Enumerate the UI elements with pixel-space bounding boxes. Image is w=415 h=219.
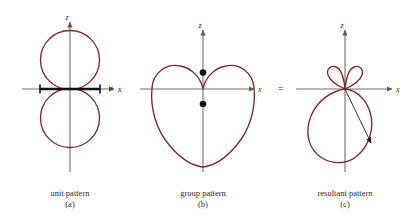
panel-c-caption-text: resultant pattern (318, 188, 373, 198)
panel-c-main-lobe (308, 89, 372, 163)
panel-a-caption-sub: (a) (20, 199, 120, 210)
panel-b-source-dot-upper (200, 69, 207, 76)
panel-c-upper-loop-right (345, 66, 362, 89)
panel-a-caption-text: unit pattern (51, 188, 90, 198)
panel-a-unit-pattern: z x (22, 13, 122, 172)
panel-b-caption-sub: (b) (153, 199, 253, 210)
panel-c-caption-sub: (c) (292, 199, 398, 210)
panel-a-x-axis-label: x (117, 85, 122, 94)
panel-c-x-axis-label: x (395, 85, 400, 94)
panel-a-z-axis-label: z (65, 13, 70, 22)
panel-a-caption: unit pattern (a) (20, 188, 120, 209)
panel-c-radial-vector-arrow (345, 89, 371, 143)
panel-c-resultant-pattern: z x (296, 21, 400, 172)
panel-c-upper-loop-left (328, 66, 345, 89)
panel-b-z-axis-label: z (198, 21, 203, 30)
panel-b-group-pattern: z x (140, 21, 262, 172)
panel-b-caption-text: group pattern (180, 188, 226, 198)
panel-c-z-axis-label: z (340, 21, 345, 30)
operator-multiply: × (108, 83, 114, 94)
pattern-multiplication-figure: z x z x (0, 0, 415, 219)
figure-canvas: z x z x (0, 0, 415, 219)
panel-b-caption: group pattern (b) (153, 188, 253, 209)
panel-b-x-axis-label: x (257, 85, 262, 94)
operator-equals: = (278, 83, 284, 94)
panel-c-caption: resultant pattern (c) (292, 188, 398, 209)
panel-b-source-dot-lower (200, 101, 207, 108)
